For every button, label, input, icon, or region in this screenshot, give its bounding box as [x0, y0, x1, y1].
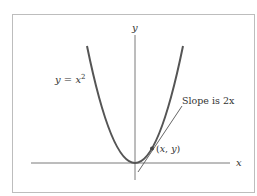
y-axis-label: y — [131, 22, 138, 33]
tangent-line — [138, 106, 182, 172]
point-label: (x, y) — [156, 143, 180, 154]
x-axis-label: x — [236, 157, 242, 168]
tangent-point — [150, 147, 154, 151]
slope-label: Slope is 2x — [182, 95, 235, 106]
curve-label: y = x2 — [54, 73, 86, 85]
parabola-diagram: x y y = x2 Slope is 2x (x, y) — [0, 0, 257, 196]
